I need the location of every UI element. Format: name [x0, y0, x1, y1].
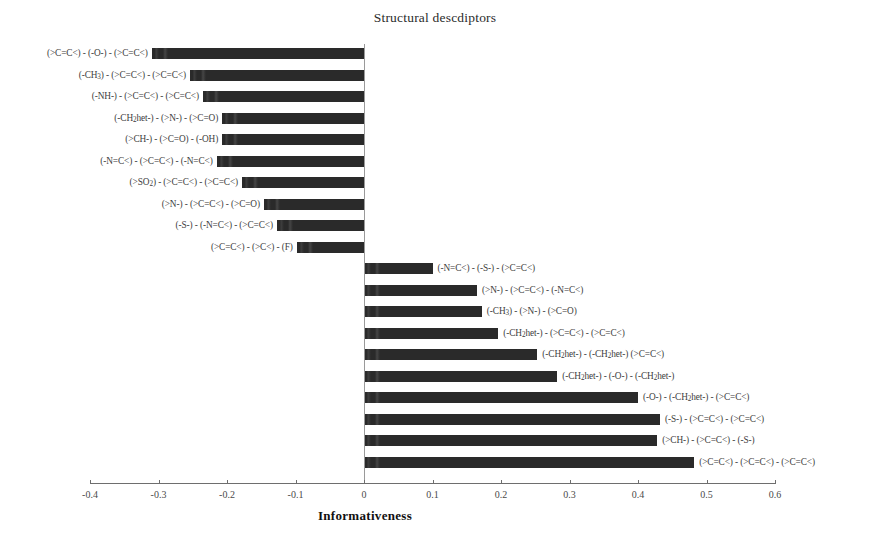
- bar[interactable]: [222, 113, 364, 124]
- bar[interactable]: [364, 371, 557, 382]
- plot-area: (>C=C<) - (-O-) - (>C=C<)(-CH3) - (>C=C<…: [0, 44, 870, 484]
- bar[interactable]: [364, 414, 660, 425]
- bar-label: (-O-) - (-CH2het-) - (>C=C<): [643, 389, 749, 407]
- x-tick-label: 0.2: [481, 489, 521, 500]
- bar-label: (>CH-) - (>C=O) - (-OH): [0, 131, 218, 147]
- bar[interactable]: [217, 156, 364, 167]
- x-tick-label: 0: [344, 489, 384, 500]
- x-tick-mark: [364, 480, 365, 484]
- x-tick-label: 0.4: [618, 489, 658, 500]
- bar-label: (-S-) - (-N=C<) - (>C=C<): [0, 217, 273, 233]
- x-tick-label: -0.3: [139, 489, 179, 500]
- bar-row: (-CH3) - (>C=C<) - (>C=C<): [0, 66, 870, 88]
- bar-label: (>C=C<) - (>C<) - (F): [0, 239, 293, 255]
- chart-title: Structural descdiptors: [0, 10, 870, 26]
- bar-label: (-CH3) - (>N-) - (>C=O): [487, 303, 577, 321]
- bar-row: (-CH2het-) - (-CH2het-) (>C=C<): [0, 345, 870, 367]
- bar-row: (-CH2het-) - (-O-) - (-CH2het-): [0, 367, 870, 389]
- bar-row: (>CH-) - (>C=O) - (-OH): [0, 130, 870, 152]
- bar[interactable]: [364, 285, 477, 296]
- bar-label: (>SO2) - (>C=C<) - (>C=C<): [0, 174, 238, 192]
- bar-row: (>N-) - (>C=C<) - (>C=O): [0, 195, 870, 217]
- x-tick-mark: [159, 480, 160, 484]
- bar-label: (>C=C<) - (>C=C<) - (>C=C<): [699, 454, 815, 470]
- bar-row: (>N-) - (>C=C<) - (-N=C<): [0, 281, 870, 303]
- bar[interactable]: [190, 70, 364, 81]
- x-tick-label: -0.1: [276, 489, 316, 500]
- bar-label: (-CH2het-) - (>C=C<) - (>C=C<): [503, 325, 624, 343]
- x-axis-title: Informativeness: [0, 508, 730, 524]
- chart-container: Structural descdiptors (>C=C<) - (-O-) -…: [0, 0, 870, 540]
- bar-label: (-NH-) - (>C=C<) - (>C=C<): [0, 88, 199, 104]
- bar[interactable]: [152, 48, 364, 59]
- x-tick-label: 0.1: [413, 489, 453, 500]
- bar-label: (>N-) - (>C=C<) - (>C=O): [0, 196, 260, 212]
- x-tick-mark: [501, 480, 502, 484]
- bar-row: (-CH3) - (>N-) - (>C=O): [0, 302, 870, 324]
- bar-row: (>CH-) - (>C=C<) - (-S-): [0, 431, 870, 453]
- x-tick-label: -0.4: [70, 489, 110, 500]
- bar-row: (-CH2het-) - (>C=C<) - (>C=C<): [0, 324, 870, 346]
- x-axis: -0.4-0.3-0.2-0.100.10.20.30.40.50.6: [0, 483, 870, 484]
- bar[interactable]: [297, 242, 364, 253]
- bar-row: (-NH-) - (>C=C<) - (>C=C<): [0, 87, 870, 109]
- bar-label: (-N=C<) - (-S-) - (>C=C<): [438, 260, 536, 276]
- bar-row: (-CH2het-) - (>N-) - (>C=O): [0, 109, 870, 131]
- bar-label: (-N=C<) - (>C=C<) - (-N=C<): [0, 153, 213, 169]
- x-tick-mark: [570, 480, 571, 484]
- bar[interactable]: [364, 328, 498, 339]
- bar-row: (>SO2) - (>C=C<) - (>C=C<): [0, 173, 870, 195]
- x-tick-label: 0.3: [550, 489, 590, 500]
- bar-row: (-O-) - (-CH2het-) - (>C=C<): [0, 388, 870, 410]
- bar-row: (>C=C<) - (-O-) - (>C=C<): [0, 44, 870, 66]
- x-tick-mark: [638, 480, 639, 484]
- bar-label: (-S-) - (>C=C<) - (>C=C<): [665, 411, 764, 427]
- bar[interactable]: [364, 392, 638, 403]
- bar[interactable]: [364, 457, 694, 468]
- x-tick-mark: [227, 480, 228, 484]
- bar-row: (-S-) - (-N=C<) - (>C=C<): [0, 216, 870, 238]
- bar-row: (-N=C<) - (>C=C<) - (-N=C<): [0, 152, 870, 174]
- bar[interactable]: [277, 220, 364, 231]
- bar[interactable]: [203, 91, 364, 102]
- bar[interactable]: [364, 263, 433, 274]
- bar-label: (-CH2het-) - (>N-) - (>C=O): [0, 110, 218, 128]
- bar-row: (>C=C<) - (>C<) - (F): [0, 238, 870, 260]
- bar[interactable]: [264, 199, 364, 210]
- bar-label: (-CH3) - (>C=C<) - (>C=C<): [0, 67, 186, 85]
- x-tick-mark: [90, 480, 91, 484]
- bar-label: (>N-) - (>C=C<) - (-N=C<): [482, 282, 583, 298]
- bar[interactable]: [364, 349, 537, 360]
- bar-label: (-CH2het-) - (-O-) - (-CH2het-): [562, 368, 674, 386]
- bar[interactable]: [222, 134, 364, 145]
- bar-label: (>C=C<) - (-O-) - (>C=C<): [0, 45, 148, 61]
- bar-label: (-CH2het-) - (-CH2het-) (>C=C<): [542, 346, 664, 364]
- zero-reference-line: [364, 44, 365, 484]
- x-tick-mark: [707, 480, 708, 484]
- bar[interactable]: [364, 435, 657, 446]
- x-tick-label: -0.2: [207, 489, 247, 500]
- x-tick-mark: [296, 480, 297, 484]
- bar[interactable]: [242, 177, 364, 188]
- bar-label: (>CH-) - (>C=C<) - (-S-): [662, 432, 754, 448]
- bar-row: (-S-) - (>C=C<) - (>C=C<): [0, 410, 870, 432]
- bar-row: (-N=C<) - (-S-) - (>C=C<): [0, 259, 870, 281]
- bar[interactable]: [364, 306, 482, 317]
- x-tick-mark: [775, 480, 776, 484]
- x-tick-label: 0.5: [687, 489, 727, 500]
- x-tick-label: 0.6: [755, 489, 795, 500]
- x-tick-mark: [433, 480, 434, 484]
- bar-row: (>C=C<) - (>C=C<) - (>C=C<): [0, 453, 870, 475]
